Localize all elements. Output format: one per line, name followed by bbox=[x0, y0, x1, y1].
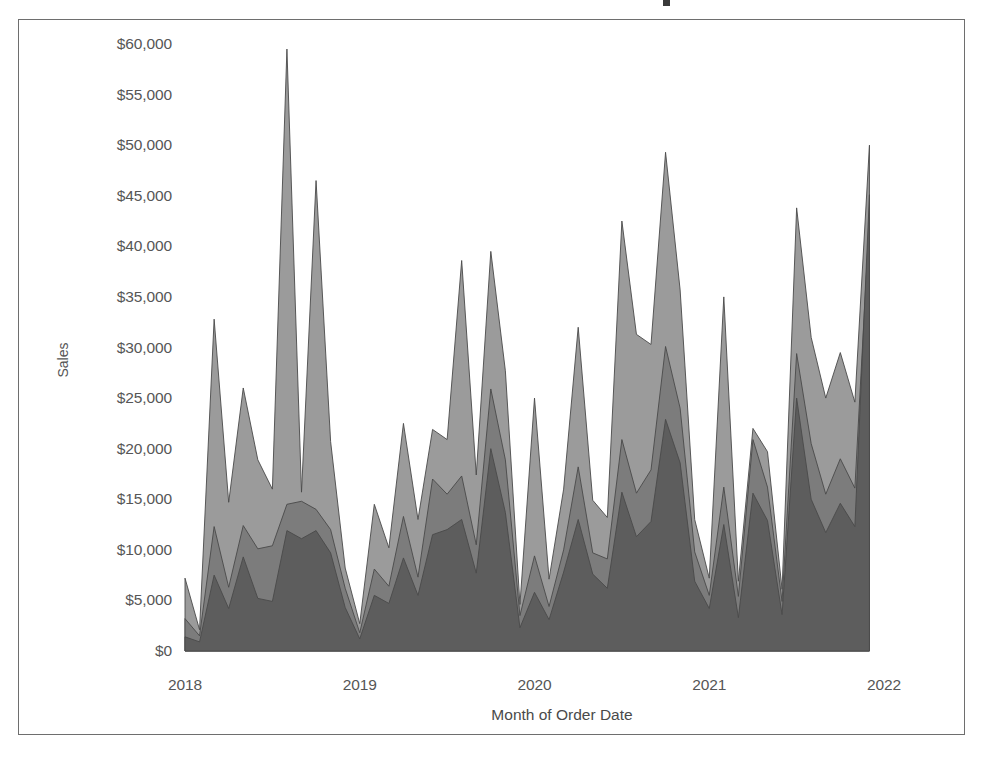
x-axis-tick-label: 2022 bbox=[867, 676, 901, 694]
x-axis-tick-label: 2020 bbox=[517, 676, 551, 694]
y-axis-tick-label: $35,000 bbox=[0, 288, 172, 306]
y-axis-tick-label: $40,000 bbox=[0, 237, 172, 255]
x-axis-tick-label: 2018 bbox=[168, 676, 202, 694]
y-axis-tick-label: $5,000 bbox=[0, 591, 172, 609]
chart-page: $0$5,000$10,000$15,000$20,000$25,000$30,… bbox=[0, 0, 986, 757]
y-axis-tick-label: $0 bbox=[0, 642, 172, 660]
y-axis-tick-label: $15,000 bbox=[0, 490, 172, 508]
y-axis-tick-label: $20,000 bbox=[0, 440, 172, 458]
x-axis-tick-label: 2019 bbox=[343, 676, 377, 694]
y-axis-tick-label: $60,000 bbox=[0, 35, 172, 53]
y-axis-tick-label: $25,000 bbox=[0, 389, 172, 407]
x-axis-title: Month of Order Date bbox=[491, 706, 632, 724]
x-axis-tick-label: 2021 bbox=[692, 676, 726, 694]
y-axis-tick-label: $45,000 bbox=[0, 187, 172, 205]
y-axis-tick-label: $50,000 bbox=[0, 136, 172, 154]
area-chart: $0$5,000$10,000$15,000$20,000$25,000$30,… bbox=[0, 0, 986, 757]
y-axis-tick-label: $30,000 bbox=[0, 339, 172, 357]
y-axis-tick-label: $10,000 bbox=[0, 541, 172, 559]
y-axis-tick-label: $55,000 bbox=[0, 86, 172, 104]
y-axis-title: Sales bbox=[55, 342, 71, 377]
series-group bbox=[185, 49, 869, 651]
